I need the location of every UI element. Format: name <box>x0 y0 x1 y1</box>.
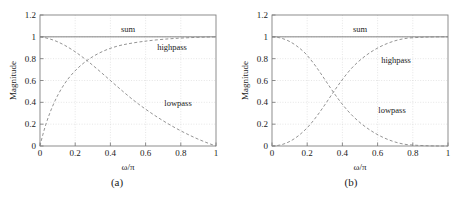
xtick-label-b-2: 0.4 <box>337 148 349 158</box>
xaxis-title-b: ω/π <box>354 162 367 172</box>
xtick-label-a-0: 0 <box>38 148 43 158</box>
chart-a-svg: 0 0.2 0.4 0.6 0.8 1 0 0.2 0.4 0.6 0.8 1 … <box>0 0 234 200</box>
ytick-label-b-2: 0.4 <box>257 97 269 107</box>
xtick-label-b-3: 0.6 <box>372 148 384 158</box>
xtick-label-b-4: 0.8 <box>407 148 419 158</box>
panel-caption-b: (b) <box>234 176 468 188</box>
ytick-label-b-4: 0.8 <box>257 54 269 64</box>
xtick-label-a-4: 0.8 <box>175 148 187 158</box>
ytick-label-a-1: 0.2 <box>25 119 36 129</box>
xtick-label-a-1: 0.2 <box>70 148 81 158</box>
ytick-label-b-6: 1.2 <box>257 10 268 20</box>
yaxis-title-b: Magnitude <box>240 61 250 100</box>
panel-caption-a: (a) <box>0 176 234 188</box>
xtick-label-a-3: 0.6 <box>140 148 152 158</box>
ytick-label-a-2: 0.4 <box>25 97 37 107</box>
ytick-label-b-3: 0.6 <box>257 76 269 86</box>
ytick-label-b-1: 0.2 <box>257 119 268 129</box>
ytick-label-a-5: 1 <box>32 32 37 42</box>
xtick-label-a-5: 1 <box>214 148 219 158</box>
chart-b-svg: 0 0.2 0.4 0.6 0.8 1 0 0.2 0.4 0.6 0.8 1 … <box>234 0 468 200</box>
xaxis-title-a: ω/π <box>122 162 135 172</box>
curve-label-highpass-a: highpass <box>157 42 187 52</box>
xtick-label-a-2: 0.4 <box>105 148 117 158</box>
curve-label-lowpass-a: lowpass <box>164 98 191 108</box>
plot-panel-b: 0 0.2 0.4 0.6 0.8 1 0 0.2 0.4 0.6 0.8 1 … <box>234 0 468 200</box>
figure-container: 0 0.2 0.4 0.6 0.8 1 0 0.2 0.4 0.6 0.8 1 … <box>0 0 468 200</box>
curve-label-lowpass-b: lowpass <box>378 105 405 115</box>
ytick-label-b-5: 1 <box>264 32 269 42</box>
ytick-label-a-3: 0.6 <box>25 76 37 86</box>
yaxis-title-a: Magnitude <box>8 61 18 100</box>
xtick-label-b-0: 0 <box>270 148 275 158</box>
curve-label-sum-a: sum <box>121 24 136 34</box>
curve-label-highpass-b: highpass <box>381 55 411 65</box>
plot-panel-a: 0 0.2 0.4 0.6 0.8 1 0 0.2 0.4 0.6 0.8 1 … <box>0 0 234 200</box>
ytick-label-a-4: 0.8 <box>25 54 37 64</box>
xtick-label-b-5: 1 <box>446 148 451 158</box>
xtick-label-b-1: 0.2 <box>302 148 313 158</box>
ytick-label-a-6: 1.2 <box>25 10 36 20</box>
ytick-label-a-0: 0 <box>32 141 37 151</box>
curve-label-sum-b: sum <box>353 24 368 34</box>
ytick-label-b-0: 0 <box>264 141 269 151</box>
